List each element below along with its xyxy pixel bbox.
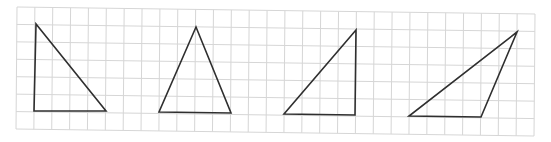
- grid-line-horizontal: [16, 112, 534, 119]
- grid-line-vertical: [16, 7, 17, 129]
- triangle-grid-diagram: [0, 0, 551, 142]
- grid-line-vertical: [105, 8, 106, 130]
- grid-line-vertical: [141, 9, 142, 131]
- grid-line-vertical: [391, 12, 392, 134]
- grid-line-horizontal: [16, 77, 534, 84]
- grid-line-horizontal: [17, 59, 535, 66]
- grid-line-horizontal: [17, 7, 535, 14]
- grid-line-vertical: [248, 10, 249, 132]
- grid-line-vertical: [534, 14, 535, 136]
- grid-line-vertical: [373, 12, 374, 134]
- grid-line-horizontal: [17, 42, 535, 49]
- grid-line-horizontal: [17, 24, 535, 31]
- grid-line-vertical: [123, 8, 124, 130]
- grid-line-horizontal: [16, 129, 534, 136]
- grid-line-vertical: [266, 10, 267, 132]
